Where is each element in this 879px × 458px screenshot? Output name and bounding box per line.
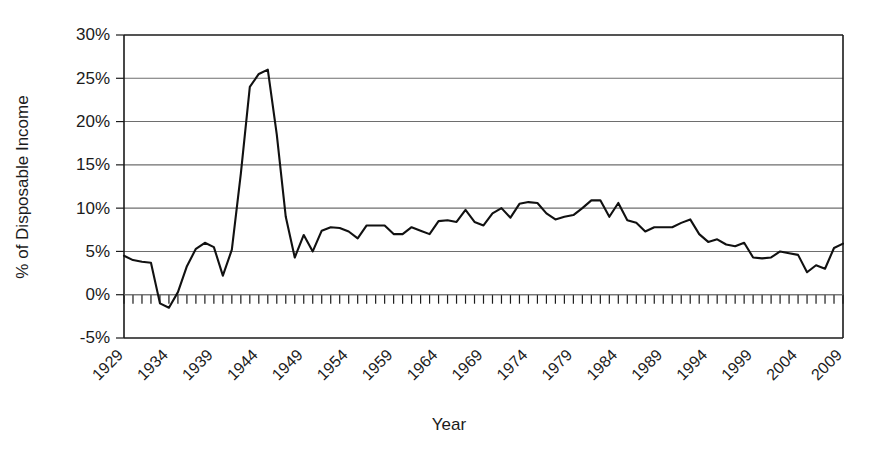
x-tick-label: 1969 — [448, 346, 485, 383]
y-tick-label: -5% — [80, 328, 110, 347]
x-axis-tick-labels: 1929193419391944194919541959196419691974… — [89, 346, 845, 383]
plot-frame — [124, 35, 843, 338]
x-tick-label: 1959 — [359, 346, 396, 383]
y-axis-tick-marks — [116, 35, 124, 338]
x-axis-minor-ticks — [124, 295, 843, 304]
x-tick-label: 1984 — [583, 346, 620, 383]
x-tick-label: 2009 — [808, 346, 845, 383]
x-tick-label: 1934 — [134, 346, 171, 383]
x-tick-label: 1929 — [89, 346, 126, 383]
x-tick-label: 1989 — [628, 346, 665, 383]
gridlines — [124, 78, 843, 294]
savings-rate-line-chart: 30%25%20%15%10%5%0%-5% 19291934193919441… — [0, 0, 879, 458]
x-tick-label: 1939 — [179, 346, 216, 383]
y-tick-label: 15% — [76, 155, 110, 174]
x-tick-label: 1954 — [314, 346, 351, 383]
y-tick-label: 5% — [85, 242, 110, 261]
x-tick-label: 1964 — [403, 346, 440, 383]
x-tick-label: 1994 — [673, 346, 710, 383]
y-tick-label: 25% — [76, 69, 110, 88]
y-tick-label: 30% — [76, 25, 110, 44]
chart-figure: 30%25%20%15%10%5%0%-5% 19291934193919441… — [0, 0, 879, 458]
y-tick-label: 0% — [85, 285, 110, 304]
y-axis-tick-labels: 30%25%20%15%10%5%0%-5% — [76, 25, 110, 347]
series-line — [124, 70, 843, 308]
x-tick-label: 2004 — [763, 346, 800, 383]
x-tick-label: 1949 — [269, 346, 306, 383]
x-tick-label: 1999 — [718, 346, 755, 383]
y-tick-label: 10% — [76, 199, 110, 218]
x-tick-label: 1944 — [224, 346, 261, 383]
x-tick-label: 1974 — [493, 346, 530, 383]
y-axis-title: % of Disposable Income — [13, 95, 32, 278]
x-tick-label: 1979 — [538, 346, 575, 383]
data-series-line — [124, 70, 843, 308]
x-axis-title: Year — [432, 415, 467, 434]
y-tick-label: 20% — [76, 112, 110, 131]
